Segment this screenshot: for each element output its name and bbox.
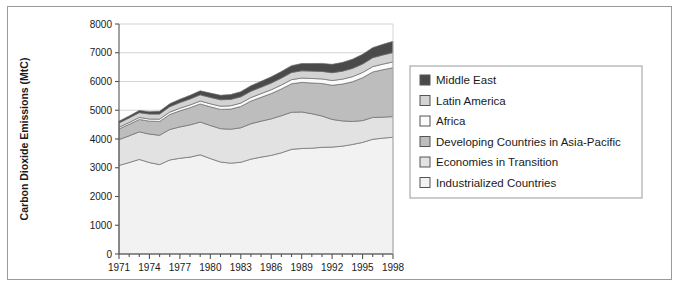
- legend-swatch: [420, 96, 430, 106]
- y-tick-label: 0: [106, 249, 112, 260]
- x-tick-label: 1989: [291, 262, 314, 273]
- stacked-areas: [119, 41, 393, 254]
- legend-swatch: [420, 116, 430, 126]
- legend-label: Latin America: [436, 95, 506, 107]
- y-axis-ticks: 010002000300040005000600070008000: [90, 19, 119, 260]
- x-tick-label: 1971: [108, 262, 131, 273]
- x-tick-label: 1977: [169, 262, 192, 273]
- x-tick-label: 1986: [260, 262, 283, 273]
- y-tick-label: 2000: [90, 191, 113, 202]
- figure-root: 010002000300040005000600070008000 197119…: [0, 0, 679, 287]
- legend-swatch: [420, 157, 430, 167]
- y-tick-label: 3000: [90, 162, 113, 173]
- x-tick-label: 1974: [138, 262, 161, 273]
- x-tick-label: 1995: [351, 262, 374, 273]
- legend-label: Africa: [436, 115, 466, 127]
- x-axis-ticks: 1971197419771980198319861989199219951998: [108, 254, 405, 273]
- chart-legend: Middle EastLatin AmericaAfricaDeveloping…: [410, 66, 642, 198]
- figure-frame: 010002000300040005000600070008000 197119…: [7, 6, 672, 280]
- y-axis-title: Carbon Dioxide Emissions (MtC): [18, 58, 30, 221]
- x-tick-label: 1998: [382, 262, 405, 273]
- x-tick-label: 1992: [321, 262, 344, 273]
- stacked-area-chart: 010002000300040005000600070008000 197119…: [8, 7, 671, 279]
- y-tick-label: 6000: [90, 76, 113, 87]
- y-tick-label: 4000: [90, 134, 113, 145]
- y-tick-label: 7000: [90, 47, 113, 58]
- y-tick-label: 1000: [90, 220, 113, 231]
- legend-label: Industrialized Countries: [436, 177, 556, 189]
- legend-label: Economies in Transition: [436, 156, 558, 168]
- legend-label: Developing Countries in Asia-Pacific: [436, 136, 621, 148]
- x-tick-label: 1980: [199, 262, 222, 273]
- legend-swatch: [420, 178, 430, 188]
- y-tick-label: 5000: [90, 105, 113, 116]
- legend-swatch: [420, 137, 430, 147]
- legend-swatch: [420, 75, 430, 85]
- y-tick-label: 8000: [90, 19, 113, 30]
- x-tick-label: 1983: [230, 262, 253, 273]
- legend-label: Middle East: [436, 74, 497, 86]
